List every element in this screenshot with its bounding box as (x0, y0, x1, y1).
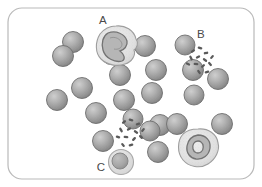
red-blood-cell-texture (135, 36, 155, 56)
red-blood-cell (146, 60, 167, 81)
red-blood-cell (114, 90, 135, 111)
red-blood-cell-texture (93, 131, 113, 151)
red-blood-cell-texture (185, 86, 204, 105)
red-blood-cell-texture (167, 114, 187, 134)
red-blood-cell-texture (72, 78, 92, 98)
red-blood-cell (53, 46, 74, 67)
red-blood-cell (148, 142, 169, 163)
red-blood-cell-texture (212, 114, 232, 134)
red-blood-cell (110, 65, 131, 86)
red-blood-cell-texture (86, 103, 106, 123)
red-blood-cell-texture (146, 60, 166, 80)
red-blood-cell (208, 69, 229, 90)
red-blood-cell-texture (114, 90, 134, 110)
red-blood-cell-texture (110, 65, 130, 85)
red-blood-cell (167, 114, 188, 135)
label-c: C (97, 161, 106, 173)
red-blood-cell (86, 103, 107, 124)
red-blood-cell (183, 60, 204, 81)
microscopy-figure: A B C (0, 0, 262, 187)
red-blood-cell-texture (47, 90, 67, 110)
red-blood-cell (72, 78, 93, 99)
lymphocyte-layer (109, 150, 134, 175)
label-a: A (99, 14, 107, 26)
red-blood-cell-texture (53, 46, 73, 66)
figure-canvas: A B C (0, 0, 262, 187)
red-blood-cell (135, 36, 156, 57)
red-blood-cell (212, 114, 233, 135)
red-blood-cell-texture (124, 110, 143, 129)
red-blood-cell-texture (142, 83, 162, 103)
lymphocyte-nucleus (112, 153, 128, 169)
red-blood-cell (93, 131, 114, 152)
band-neutrophil-cell (96, 26, 137, 66)
red-blood-cell (184, 85, 204, 105)
label-b: B (197, 28, 205, 40)
segmented-neutrophil-cell (179, 129, 219, 167)
red-blood-cell-texture (208, 69, 228, 89)
red-blood-cell (123, 109, 143, 129)
red-blood-cell (47, 90, 68, 111)
red-blood-cell (142, 83, 163, 104)
red-blood-cell-texture (148, 142, 168, 162)
